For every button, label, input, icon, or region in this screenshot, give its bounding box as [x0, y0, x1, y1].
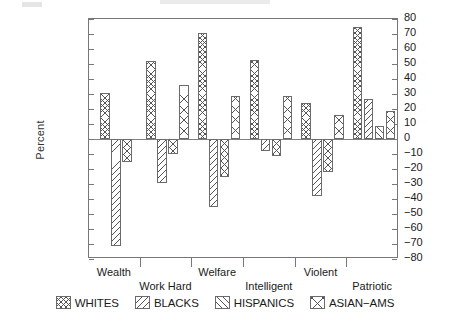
- axis-tick: [392, 244, 397, 245]
- bar-work-hard-asian-ams: [179, 85, 189, 139]
- bar-work-hard-blacks: [157, 139, 167, 183]
- axis-tick: [89, 259, 94, 260]
- scan-artifact: [22, 2, 42, 7]
- diagonal-down-swatch-icon: [135, 296, 150, 309]
- x-axis-category-label: Patriotic: [327, 280, 417, 292]
- axis-tick: [392, 229, 397, 230]
- y-axis-tick-label-right: 50: [404, 57, 444, 68]
- x-axis-category-label: Work Hard: [121, 280, 211, 292]
- axis-tick: [89, 79, 94, 80]
- axis-tick: [392, 49, 397, 50]
- bar-intelligent-blacks: [261, 139, 271, 151]
- chart-legend: WHITESBLACKSHISPANICSASIAN−AMS: [0, 296, 450, 309]
- axis-tick: [89, 109, 94, 110]
- bar-welfare-whites: [198, 33, 208, 140]
- bar-work-hard-whites: [146, 61, 156, 139]
- axis-tick: [392, 154, 397, 155]
- y-axis-tick-label-right: 60: [404, 42, 444, 53]
- axis-tick: [89, 169, 94, 170]
- bar-intelligent-asian-ams: [283, 96, 293, 140]
- category-separator: [346, 258, 347, 267]
- y-axis-tick-label-right: 80: [404, 12, 444, 23]
- axis-tick: [89, 199, 94, 200]
- cross-x-swatch-icon: [310, 296, 325, 309]
- category-separator: [243, 258, 244, 267]
- legend-item[interactable]: HISPANICS: [215, 296, 294, 309]
- y-axis-tick-label-right: 10: [404, 117, 444, 128]
- y-axis-tick-label-right: −20: [404, 162, 444, 173]
- axis-tick: [392, 184, 397, 185]
- zero-line: [89, 139, 397, 140]
- y-axis-tick-label-right: −70: [404, 237, 444, 248]
- axis-tick: [392, 169, 397, 170]
- x-axis-category-label: Wealth: [69, 266, 159, 278]
- y-axis-tick-label-right: −40: [404, 192, 444, 203]
- y-axis-tick-label-right: 0: [404, 132, 444, 143]
- axis-tick: [89, 19, 94, 20]
- bar-wealth-blacks: [111, 139, 121, 246]
- bar-work-hard-hispanics: [168, 139, 178, 154]
- axis-tick: [89, 94, 94, 95]
- axis-tick: [89, 244, 94, 245]
- axis-tick: [392, 214, 397, 215]
- legend-item[interactable]: ASIAN−AMS: [310, 296, 394, 309]
- y-axis-tick-label-right: −30: [404, 177, 444, 188]
- bar-welfare-asian-ams: [231, 96, 241, 140]
- bar-welfare-blacks: [209, 139, 219, 207]
- axis-tick: [392, 79, 397, 80]
- x-axis-category-label: Violent: [276, 266, 366, 278]
- axis-tick: [392, 259, 397, 260]
- axis-tick: [89, 64, 94, 65]
- chart-figure: Percent 80807070606050504040303020201010…: [0, 0, 450, 322]
- axis-tick: [89, 124, 94, 125]
- y-axis-tick-label-right: −60: [404, 222, 444, 233]
- axis-tick: [392, 94, 397, 95]
- bar-violent-asian-ams: [334, 115, 344, 139]
- diagonal-up-swatch-icon: [215, 296, 230, 309]
- axis-tick: [89, 34, 94, 35]
- axis-tick: [392, 34, 397, 35]
- y-axis-tick-label-right: −80: [404, 252, 444, 263]
- plot-inner: [89, 19, 397, 257]
- bar-patriotic-blacks: [364, 99, 374, 140]
- bar-intelligent-whites: [250, 60, 260, 140]
- plot-area: [88, 18, 398, 258]
- bar-wealth-hispanics: [122, 139, 132, 162]
- y-axis-tick-label-right: 70: [404, 27, 444, 38]
- legend-item[interactable]: WHITES: [56, 296, 119, 309]
- axis-tick: [392, 199, 397, 200]
- bar-wealth-whites: [100, 93, 110, 140]
- axis-tick: [392, 64, 397, 65]
- bar-violent-hispanics: [323, 139, 333, 172]
- legend-label: ASIAN−AMS: [329, 297, 394, 309]
- x-axis-category-label: Welfare: [172, 266, 262, 278]
- bar-patriotic-asian-ams: [386, 111, 396, 140]
- y-axis-tick-label-right: 20: [404, 102, 444, 113]
- axis-tick: [392, 139, 397, 140]
- legend-item[interactable]: BLACKS: [135, 296, 199, 309]
- y-axis-title: Percent: [34, 100, 46, 180]
- bar-violent-whites: [301, 103, 311, 139]
- x-axis-category-label: Intelligent: [224, 280, 314, 292]
- axis-tick: [89, 229, 94, 230]
- y-axis-tick-label-right: −50: [404, 207, 444, 218]
- axis-tick: [89, 139, 94, 140]
- axis-tick: [392, 19, 397, 20]
- legend-label: HISPANICS: [234, 297, 294, 309]
- axis-tick: [89, 214, 94, 215]
- bar-patriotic-whites: [353, 27, 363, 140]
- bar-violent-blacks: [312, 139, 322, 196]
- axis-tick: [89, 154, 94, 155]
- bar-welfare-hispanics: [220, 139, 230, 177]
- crosshatch-swatch-icon: [56, 296, 71, 309]
- bar-intelligent-hispanics: [272, 139, 282, 156]
- axis-tick: [89, 184, 94, 185]
- axis-tick: [89, 49, 94, 50]
- bar-patriotic-hispanics: [375, 126, 385, 140]
- legend-label: WHITES: [75, 297, 119, 309]
- y-axis-tick-label-right: 40: [404, 72, 444, 83]
- category-separator: [140, 258, 141, 267]
- y-axis-tick-label-right: 30: [404, 87, 444, 98]
- scan-artifact-top: [160, 0, 270, 4]
- legend-label: BLACKS: [154, 297, 199, 309]
